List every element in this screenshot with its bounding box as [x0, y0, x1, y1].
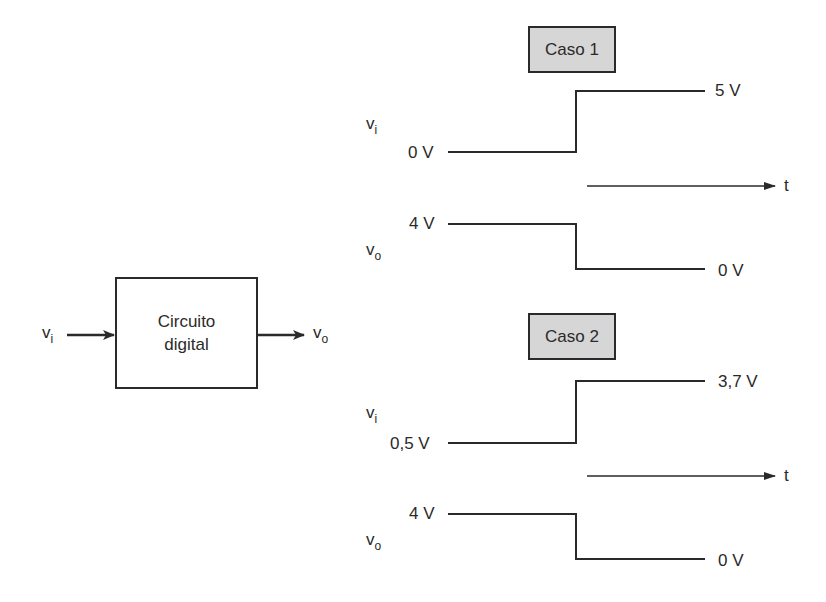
case2-vo-label: vo: [366, 531, 381, 548]
case2-vo-waveform: [448, 514, 705, 559]
digital-circuit-block: Circuitodigital: [115, 277, 258, 389]
case1-vo-high: 4 V: [409, 215, 435, 232]
case1-vi-low: 0 V: [408, 144, 434, 161]
case1-vi-label: vi: [366, 115, 377, 132]
case1-vo-label: vo: [366, 241, 381, 258]
case1-time-label: t: [784, 177, 789, 194]
case2-vi-high: 3,7 V: [718, 373, 758, 390]
block-input-label: vi: [42, 324, 53, 341]
case1-vo-low: 0 V: [718, 262, 744, 279]
case2-vo-low: 0 V: [718, 552, 744, 569]
case2-vi-low: 0,5 V: [390, 435, 430, 452]
case2-title: Caso 2: [545, 327, 599, 347]
case2-vi-waveform: [448, 381, 705, 443]
case1-vi-high: 5 V: [715, 82, 741, 99]
case2-vo-high: 4 V: [409, 505, 435, 522]
block-title-line2: digital: [158, 333, 216, 356]
case2-vi-label: vi: [366, 404, 377, 421]
case1-vo-waveform: [448, 224, 705, 269]
case1-vi-waveform: [448, 91, 705, 152]
case2-time-label: t: [784, 467, 789, 484]
block-output-label: vo: [313, 324, 328, 341]
case2-title-box: Caso 2: [528, 313, 616, 360]
case1-title: Caso 1: [545, 40, 599, 60]
block-title-line1: Circuito: [158, 310, 216, 333]
case1-title-box: Caso 1: [528, 26, 616, 73]
